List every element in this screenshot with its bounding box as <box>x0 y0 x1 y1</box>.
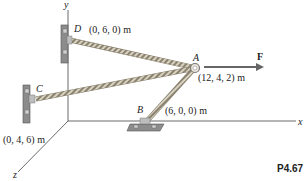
point-B-label: B <box>137 105 143 115</box>
z-axis-label: z <box>13 170 17 180</box>
y-axis-label: y <box>64 0 68 10</box>
diagram-canvas: y x z D (0, 6, 0) m C (0, 4, 6) m A (12,… <box>0 0 305 181</box>
force-arrow-F <box>204 63 264 71</box>
bracket-B <box>127 118 164 131</box>
point-D-coords: (0, 6, 0) m <box>89 25 131 35</box>
statics-figure <box>0 0 305 181</box>
bracket-C <box>23 85 35 123</box>
point-A-coords: (12, 4, 2) m <box>198 73 245 83</box>
point-C-label: C <box>36 84 43 94</box>
problem-number: P4.67 <box>277 164 303 174</box>
force-F-label: F <box>257 52 263 62</box>
rope-AD <box>70 40 196 68</box>
point-B-coords: (6, 0, 0) m <box>165 106 207 116</box>
z-axis <box>18 121 68 172</box>
point-A-label: A <box>193 53 199 63</box>
point-C-coords: (0, 4, 6) m <box>3 135 45 145</box>
point-D-label: D <box>74 24 81 34</box>
bracket-D <box>61 25 72 63</box>
x-axis-label: x <box>298 117 302 127</box>
